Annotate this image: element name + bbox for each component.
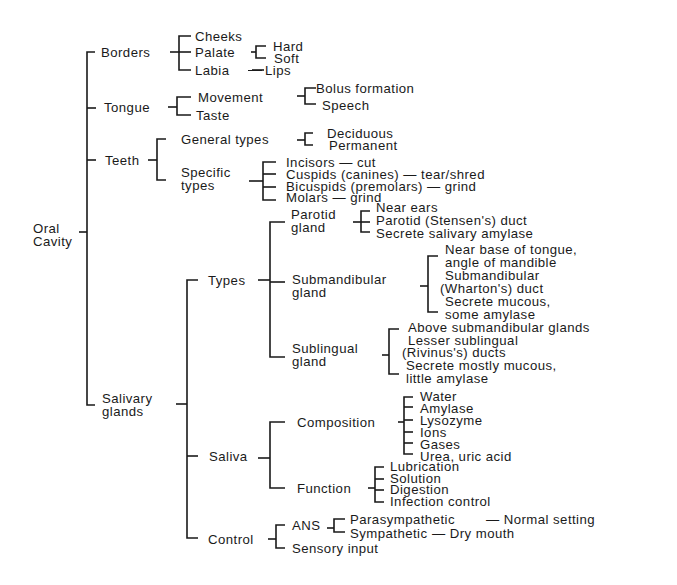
node-sensory-input: Sensory input xyxy=(292,542,379,555)
sublingual-details-3: Secrete mostly mucous, little amylase xyxy=(406,359,557,385)
node-normal-setting: — Normal setting xyxy=(486,513,595,526)
node-sympathetic: Sympathetic xyxy=(350,527,428,540)
submandibular-details-3: Secrete mucous, some amylase xyxy=(445,295,551,321)
node-control: Control xyxy=(208,533,254,546)
node-ans: ANS xyxy=(292,519,320,532)
node-dry-mouth: — Dry mouth xyxy=(432,527,515,540)
node-specific-types: Specific types xyxy=(181,166,231,192)
dash xyxy=(248,70,262,71)
submandibular-details-1: Near base of tongue, angle of mandible S… xyxy=(445,243,577,282)
node-taste: Taste xyxy=(196,109,230,122)
node-tongue: Tongue xyxy=(104,101,150,114)
node-speech: Speech xyxy=(322,99,369,112)
node-labia: Labia xyxy=(195,64,230,77)
node-molars: Molars — grind xyxy=(286,191,382,204)
node-borders: Borders xyxy=(101,46,150,59)
node-movement: Movement xyxy=(198,91,263,104)
sublingual-details-1: Above submandibular glands Lesser sublin… xyxy=(408,321,590,347)
node-general-types: General types xyxy=(181,133,269,146)
node-function: Function xyxy=(297,482,351,495)
node-permanent: Permanent xyxy=(329,139,398,152)
function-items: Lubrication Solution Digestion Infection… xyxy=(390,461,491,507)
node-parasympathetic: Parasympathetic xyxy=(350,513,455,526)
node-saliva: Saliva xyxy=(209,450,248,463)
composition-items: Water Amylase Lysozyme Ions Gases Urea, … xyxy=(420,391,512,463)
node-cheeks: Cheeks xyxy=(195,30,242,43)
node-palate: Palate xyxy=(195,46,235,59)
node-submandibular-gland: Submandibular gland xyxy=(292,273,387,299)
node-composition: Composition xyxy=(297,416,375,429)
node-lips: Lips xyxy=(265,64,291,77)
node-bolus-formation: Bolus formation xyxy=(316,82,414,95)
root-oral-cavity: Oral Cavity xyxy=(33,222,72,248)
node-types: Types xyxy=(208,274,245,287)
node-teeth: Teeth xyxy=(105,154,140,167)
parotid-details: Near ears Parotid (Stensen's) duct Secre… xyxy=(376,201,533,240)
node-parotid-gland: Parotid gland xyxy=(291,208,336,234)
node-sublingual-gland: Sublingual gland xyxy=(292,342,358,368)
node-salivary-glands: Salivary glands xyxy=(102,392,153,418)
